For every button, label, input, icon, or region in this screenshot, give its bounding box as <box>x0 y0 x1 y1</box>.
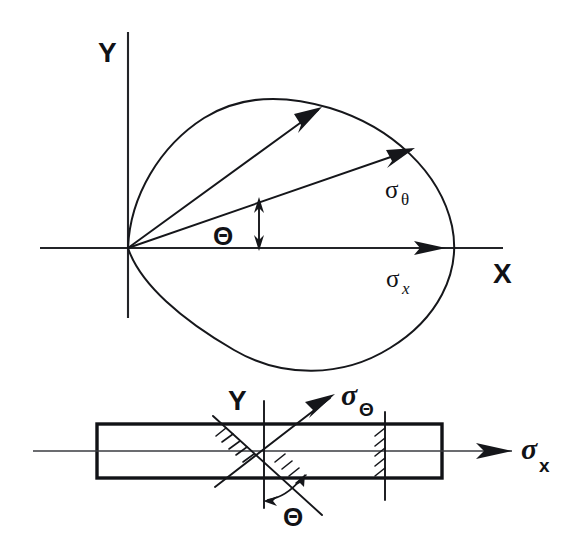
lower-angle-arrowhead-left <box>263 496 278 506</box>
vector-sigma-theta <box>128 150 411 248</box>
upper-sigma-x-label: σ x <box>386 265 410 298</box>
upper-diagram: Y X σ θ σ x Θ <box>40 32 512 371</box>
lower-sigma-theta-subscript: Θ <box>359 399 374 420</box>
upper-sigma-theta-label: σ θ <box>385 176 409 209</box>
lower-angle-arrowhead-right <box>294 474 305 487</box>
transverse-plane-hatching <box>375 428 385 476</box>
stress-diagram-svg: Y X σ θ σ x Θ <box>0 0 574 551</box>
lower-sigma-x-symbol: σ <box>521 432 538 465</box>
stress-locus-curve <box>128 99 454 371</box>
upper-x-axis-label: X <box>493 258 512 289</box>
lower-sigma-x-label: σ x <box>521 432 550 476</box>
inclined-plane-hatching-upper <box>216 428 254 462</box>
lower-sigma-x-subscript: x <box>539 455 550 476</box>
upper-sigma-theta-subscript: θ <box>401 190 409 209</box>
upper-sigma-theta-symbol: σ <box>385 176 399 203</box>
lower-diagram: Y σ Θ <box>33 378 550 532</box>
vector-theta-arrowhead <box>294 107 322 133</box>
lower-sigma-theta-label: σ Θ <box>341 378 374 420</box>
upper-y-axis-label: Y <box>98 37 117 68</box>
lower-y-axis-label: Y <box>228 385 247 416</box>
upper-theta-label: Θ <box>213 221 233 251</box>
lower-sigma-theta-symbol: σ <box>341 378 358 411</box>
figure-root: Y X σ θ σ x Θ <box>0 0 574 551</box>
lower-theta-label: Θ <box>283 502 303 532</box>
upper-sigma-x-subscript: x <box>401 279 410 298</box>
upper-sigma-x-symbol: σ <box>386 265 400 292</box>
